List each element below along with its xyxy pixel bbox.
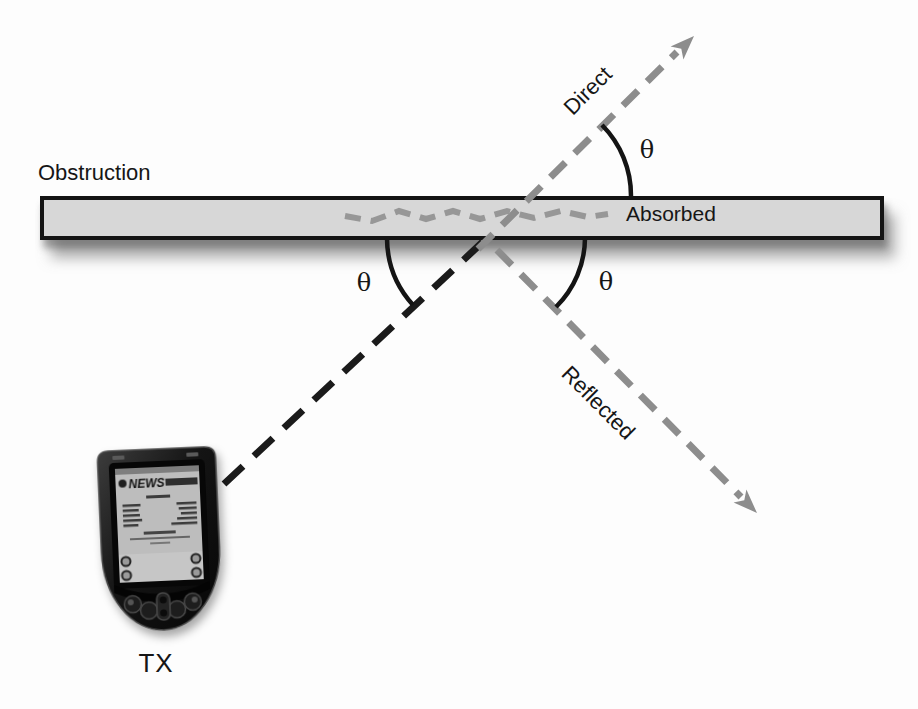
- absorbed-wave: [345, 211, 608, 221]
- tx-label: TX: [138, 648, 173, 679]
- angle-arc-right: [556, 238, 585, 307]
- absorbed-label: Absorbed: [626, 202, 716, 226]
- pda-corner-icon: [192, 568, 201, 577]
- angle-arc-top: [602, 125, 631, 196]
- reflected-ray: [497, 250, 741, 497]
- pda-button: [168, 600, 186, 618]
- theta-label-top: θ: [640, 136, 654, 164]
- pda-header-bar: [165, 477, 197, 485]
- pda-button: [140, 602, 158, 620]
- propagation-diagram: Obstruction Absorbed Direct Reflected θ …: [0, 0, 918, 709]
- pda-corner-icon: [191, 554, 200, 563]
- pda-corner-icon: [122, 571, 131, 580]
- pda-illustration: NEWS: [96, 443, 224, 634]
- transmitter-device: NEWS: [96, 443, 224, 634]
- pda-status-left: [112, 455, 124, 460]
- pda-battery-icon: [186, 452, 198, 457]
- theta-label-left: θ: [357, 269, 371, 297]
- obstruction-label: Obstruction: [38, 160, 151, 186]
- angle-arc-left: [387, 238, 413, 305]
- pda-screen-title: NEWS: [128, 476, 165, 492]
- pda-corner-icon: [121, 557, 130, 566]
- incident-ray: [224, 238, 487, 484]
- theta-label-right: θ: [599, 268, 613, 296]
